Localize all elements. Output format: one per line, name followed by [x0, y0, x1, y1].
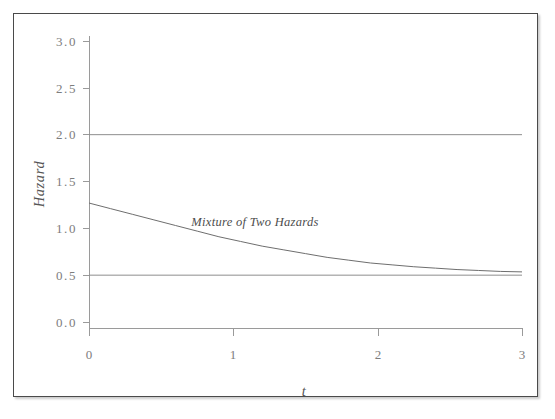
x-tick-label-3: 3 — [519, 347, 526, 362]
series-mixture-curve — [89, 203, 522, 272]
y-tick-label-1.0: 1.0 — [56, 221, 77, 236]
x-tick-label-2: 2 — [375, 347, 382, 362]
screenshot-canvas: 3.0 2.5 2.0 1.5 1.0 0.5 0.0 0 1 2 3 Haza… — [0, 0, 555, 419]
x-axis-title: t — [302, 383, 307, 398]
y-tick-label-0.0: 0.0 — [56, 315, 77, 330]
x-tick-label-1: 1 — [230, 347, 237, 362]
series-group — [89, 135, 522, 276]
y-tick-label-2.5: 2.5 — [56, 81, 77, 96]
chart-annotation: Mixture of Two Hazards — [190, 215, 318, 229]
y-tick-label-2.0: 2.0 — [56, 127, 77, 142]
x-tick-label-0: 0 — [86, 347, 93, 362]
y-axis-title: Hazard — [31, 161, 47, 209]
plot-frame: 3.0 2.5 2.0 1.5 1.0 0.5 0.0 0 1 2 3 Haza… — [13, 13, 538, 397]
hazard-chart: 3.0 2.5 2.0 1.5 1.0 0.5 0.0 0 1 2 3 Haza… — [14, 14, 539, 398]
y-tick-label-0.5: 0.5 — [56, 268, 77, 283]
y-tick-label-3.0: 3.0 — [56, 34, 77, 49]
y-tick-label-1.5: 1.5 — [56, 174, 77, 189]
